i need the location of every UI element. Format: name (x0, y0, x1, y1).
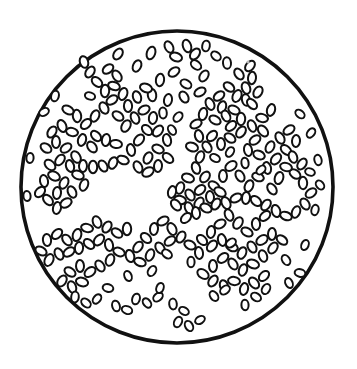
microscopy-illustration-svg (0, 0, 357, 369)
bacterium-cell (124, 100, 133, 112)
bacterium-cell (237, 113, 246, 126)
bacterium-cell (219, 170, 227, 182)
bacterium-cell (241, 300, 249, 311)
bacterium-cell (154, 160, 163, 173)
bacterium-cell (71, 291, 80, 303)
bacterium-cell (209, 260, 217, 272)
microscopy-figure (0, 0, 357, 369)
bacterium-cell (42, 234, 51, 247)
bacterium-cell (79, 160, 87, 172)
dust-speck-icon (246, 60, 249, 63)
bacterium-cell (159, 107, 167, 118)
bacterium-cell (169, 298, 178, 310)
bacterium-cell (251, 218, 260, 231)
bacterium-cell (74, 242, 83, 255)
bacterium-cell (241, 192, 250, 205)
bacterium-cell (187, 257, 194, 267)
bacterium-cell (155, 73, 165, 86)
bacterium-cell (23, 191, 31, 201)
bacterium-cell (241, 157, 250, 168)
bacterium-cell (123, 223, 131, 235)
bacterium-cell (52, 136, 60, 148)
bacterium-cell (292, 135, 301, 148)
bacterium-cell (110, 139, 123, 149)
bacterium-cell (148, 111, 158, 124)
bacterium-cell (247, 71, 256, 84)
bacterium-cell (26, 153, 34, 163)
bacterium-cell (52, 187, 61, 200)
bacterium-cell (201, 40, 210, 52)
bacterium-cell (76, 260, 84, 272)
bacterium-cell (206, 225, 216, 238)
bacterium-cell (191, 207, 201, 220)
bacterium-cell (149, 223, 158, 236)
bacterium-cell (227, 276, 240, 286)
bacterium-cell (268, 228, 276, 240)
bacterium-cell (89, 161, 97, 173)
bacterium-cell (217, 138, 225, 150)
bacterium-cell (223, 57, 232, 69)
